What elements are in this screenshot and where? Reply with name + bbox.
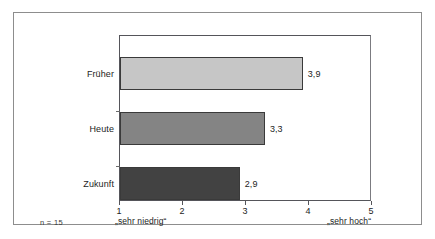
- category-label-frueher: Früher: [87, 69, 114, 79]
- x-axis-tick-label: 2: [179, 206, 184, 216]
- x-axis-tick-label: 4: [305, 206, 310, 216]
- bar-row-frueher: Früher 3,9: [120, 57, 370, 90]
- scale-anchor-low: „sehr niedrig“: [115, 216, 166, 226]
- x-axis-tick: [245, 201, 246, 205]
- scale-anchor-high: „sehr hoch“: [327, 216, 371, 226]
- category-label-heute: Heute: [89, 124, 114, 134]
- bar-row-zukunft: Zukunft 2,9: [120, 167, 370, 200]
- category-label-zukunft: Zukunft: [83, 179, 114, 189]
- x-axis-tick-label: 3: [242, 206, 247, 216]
- bar-heute: [120, 112, 265, 145]
- sample-size-note: n = 15: [40, 218, 63, 227]
- x-axis-tick: [308, 201, 309, 205]
- plot-area: Früher 3,9 Heute 3,3 Zukunft 2,9: [119, 35, 371, 201]
- bar-value-label-frueher: 3,9: [308, 69, 321, 79]
- bar-value-label-heute: 3,3: [270, 124, 283, 134]
- x-axis-tick: [371, 201, 372, 205]
- x-axis-tick-label: 1: [116, 206, 121, 216]
- x-axis-tick-label: 5: [368, 206, 373, 216]
- bar-zukunft: [120, 167, 240, 200]
- bar-frueher: [120, 57, 303, 90]
- bar-value-label-zukunft: 2,9: [245, 179, 258, 189]
- bar-row-heute: Heute 3,3: [120, 112, 370, 145]
- x-axis-tick: [119, 201, 120, 205]
- x-axis-tick: [182, 201, 183, 205]
- figure-frame: Früher 3,9 Heute 3,3 Zukunft 2,9 12345 „…: [13, 12, 422, 225]
